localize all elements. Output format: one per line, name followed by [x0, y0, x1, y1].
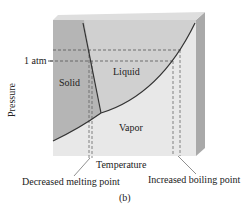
solid-label: Solid — [59, 78, 80, 88]
temperature-axis-label: Temperature — [96, 160, 146, 170]
box-top-face — [53, 12, 205, 20]
vapor-label: Vapor — [119, 123, 143, 133]
box-side-face — [196, 12, 205, 156]
increased-boiling-point-label: Increased boiling point — [148, 175, 240, 185]
melting-leader-line — [74, 158, 90, 176]
decreased-melting-point-label: Decreased melting point — [22, 177, 120, 187]
one-atm-label: 1 atm — [24, 56, 47, 66]
liquid-label: Liquid — [113, 67, 140, 77]
boiling-leader-line — [178, 156, 196, 174]
pressure-axis-label: Pressure — [7, 83, 17, 117]
figure-caption: (b) — [119, 193, 131, 203]
